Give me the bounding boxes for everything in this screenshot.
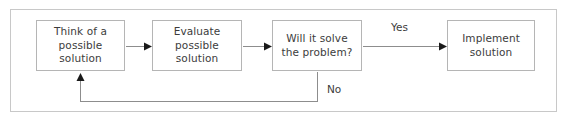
node-think-of-a-possible-solution[interactable]: Think of a possible solution [36, 20, 125, 71]
node-will-it-solve-the-problem[interactable]: Will it solve the problem? [272, 20, 362, 71]
edge-label-yes: Yes [391, 21, 408, 34]
node-implement-solution[interactable]: Implement solution [447, 20, 535, 71]
node-label: Will it solve the problem? [273, 32, 361, 59]
flowchart-canvas: Think of a possible solution Evaluate po… [0, 0, 568, 124]
node-label: Think of a possible solution [37, 25, 124, 66]
node-evaluate-possible-solution[interactable]: Evaluate possible solution [152, 20, 242, 71]
node-label: Implement solution [448, 32, 534, 59]
edge-label-no: No [327, 83, 341, 96]
node-label: Evaluate possible solution [153, 25, 241, 66]
